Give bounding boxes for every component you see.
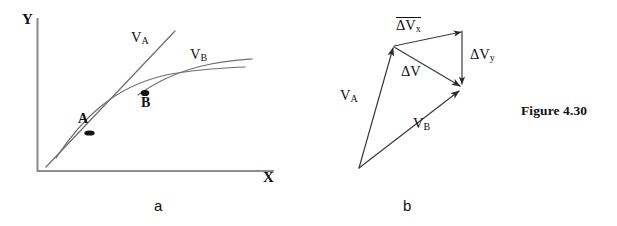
delta-vy-text: ΔV (470, 46, 490, 62)
x-axis-label: X (263, 170, 274, 185)
delta-vy-subscript: y (490, 52, 495, 63)
panel-a-vb-label: VB (190, 47, 207, 63)
panel-a-vb-subscript: B (200, 52, 207, 63)
point-a-marker (84, 130, 94, 135)
vector-va (359, 48, 393, 168)
delta-vx-subscript: x (416, 23, 421, 34)
panel-a-va-label: VA (131, 30, 149, 46)
panel-b-vectors (359, 31, 462, 168)
figure-4-30: Y X VA VB A B a ΔVx ΔVy ΔV VA VB b Figur… (0, 0, 617, 226)
panel-b-vb-subscript: B (423, 121, 430, 132)
delta-vx-text: ΔV (396, 17, 416, 33)
point-a-label: A (78, 112, 88, 126)
panel-b-va-label: VA (340, 88, 358, 104)
delta-vy-label: ΔVy (470, 47, 495, 63)
point-b-label: B (141, 96, 150, 110)
panel-a-va-text: V (131, 29, 141, 45)
y-axis-label: Y (22, 12, 33, 27)
delta-vx-label: ΔVx (396, 17, 421, 35)
panel-b-label: b (403, 198, 411, 213)
figure-caption: Figure 4.30 (521, 104, 587, 118)
panel-a-label: a (154, 198, 162, 213)
panel-a-axes (37, 18, 274, 172)
vector-vb (359, 91, 459, 168)
tangent-curve-at-b (138, 59, 252, 95)
panel-b-va-subscript: A (350, 93, 357, 104)
panel-b-vb-label: VB (413, 116, 430, 132)
panel-a-va-subscript: A (141, 35, 148, 46)
panel-b-va-text: V (340, 87, 350, 103)
delta-vx-overline: ΔVx (396, 17, 421, 35)
panel-a-vb-text: V (190, 46, 200, 62)
tangent-line-at-a (46, 31, 175, 167)
panel-b-vb-text: V (413, 115, 423, 131)
delta-v-label: ΔV (401, 64, 421, 79)
